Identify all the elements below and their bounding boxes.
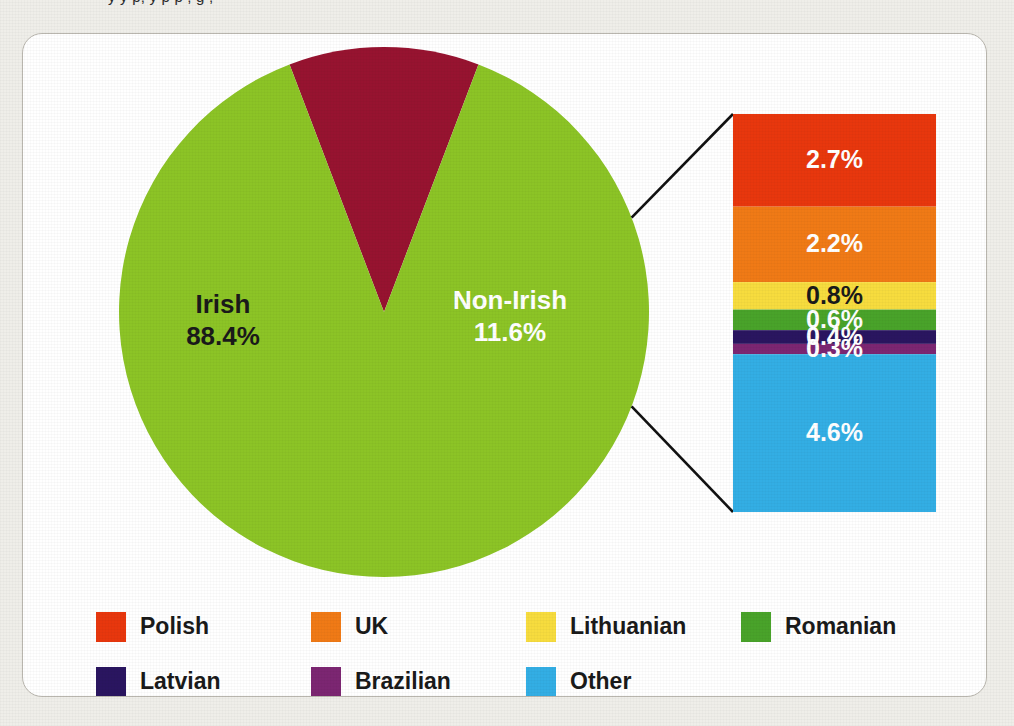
legend-item-polish[interactable]: Polish — [96, 612, 311, 642]
legend-item-uk[interactable]: UK — [311, 612, 526, 642]
bar-value-label-other: 4.6% — [733, 418, 936, 447]
pie-label-value-non-irish: 11.6% — [474, 317, 546, 347]
pie-label-value-irish: 88.4% — [186, 321, 260, 351]
legend-swatch-romanian — [741, 612, 771, 642]
legend-item-brazilian[interactable]: Brazilian — [311, 667, 526, 697]
bar-value-label-polish: 2.7% — [733, 145, 936, 174]
legend-swatch-polish — [96, 612, 126, 642]
legend-item-latvian[interactable]: Latvian — [96, 667, 311, 697]
bar-value-label-uk: 2.2% — [733, 229, 936, 258]
pie-slice-label-non-irish: Non-Irish11.6% — [415, 285, 605, 348]
legend-swatch-latvian — [96, 667, 126, 697]
legend-label-lithuanian: Lithuanian — [570, 613, 686, 640]
chart-legend: PolishUKLithuanianRomanianLatvianBrazili… — [96, 599, 956, 697]
leader-line — [632, 114, 733, 218]
cut-off-caption-text: y y p, y p p , g , — [108, 0, 908, 6]
pie-chart-plot-area: Irish88.4% Non-Irish11.6% 2.7%2.2%0.8%0.… — [23, 34, 986, 696]
legend-label-romanian: Romanian — [785, 613, 896, 640]
pie-slice-label-irish: Irish88.4% — [133, 289, 313, 352]
legend-swatch-uk — [311, 612, 341, 642]
legend-label-polish: Polish — [140, 613, 209, 640]
pie-label-name-non-irish: Non-Irish — [453, 285, 567, 315]
legend-label-latvian: Latvian — [140, 668, 221, 695]
legend-swatch-lithuanian — [526, 612, 556, 642]
chart-figure — [23, 34, 987, 697]
legend-label-other: Other — [570, 668, 631, 695]
legend-item-lithuanian[interactable]: Lithuanian — [526, 612, 741, 642]
legend-label-brazilian: Brazilian — [355, 668, 451, 695]
legend-item-other[interactable]: Other — [526, 667, 741, 697]
legend-swatch-other — [526, 667, 556, 697]
legend-swatch-brazilian — [311, 667, 341, 697]
legend-label-uk: UK — [355, 613, 388, 640]
leader-line — [632, 406, 733, 512]
chart-card: Irish88.4% Non-Irish11.6% 2.7%2.2%0.8%0.… — [22, 33, 987, 697]
legend-item-romanian[interactable]: Romanian — [741, 612, 956, 642]
bar-value-label-brazilian: 0.3% — [733, 334, 936, 363]
pie-label-name-irish: Irish — [196, 289, 251, 319]
